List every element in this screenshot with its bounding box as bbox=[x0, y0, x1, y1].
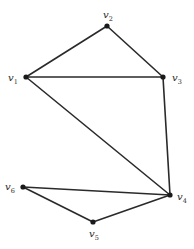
edge-v6-v5 bbox=[23, 187, 93, 222]
edge-v1-v2 bbox=[26, 26, 107, 77]
node-label-v6: v6 bbox=[5, 181, 15, 195]
node-label-v2: v2 bbox=[103, 9, 113, 23]
labels-layer: v1v2v3v4v5v6 bbox=[5, 9, 187, 242]
node-label-v1: v1 bbox=[8, 72, 18, 86]
node-v2 bbox=[104, 23, 109, 28]
edge-v2-v3 bbox=[107, 26, 163, 77]
edge-v3-v4 bbox=[163, 77, 170, 195]
node-v4 bbox=[167, 192, 172, 197]
edges-layer bbox=[23, 26, 170, 222]
edge-v1-v4 bbox=[26, 77, 170, 195]
edge-v6-v4 bbox=[23, 187, 170, 195]
node-v6 bbox=[20, 184, 25, 189]
graph-diagram: v1v2v3v4v5v6 bbox=[0, 0, 194, 249]
node-label-v5: v5 bbox=[89, 228, 99, 242]
node-label-v3: v3 bbox=[172, 72, 182, 86]
node-v5 bbox=[90, 219, 95, 224]
edge-v5-v4 bbox=[93, 195, 170, 222]
node-v3 bbox=[160, 74, 165, 79]
node-label-v4: v4 bbox=[177, 191, 187, 205]
node-v1 bbox=[23, 74, 28, 79]
